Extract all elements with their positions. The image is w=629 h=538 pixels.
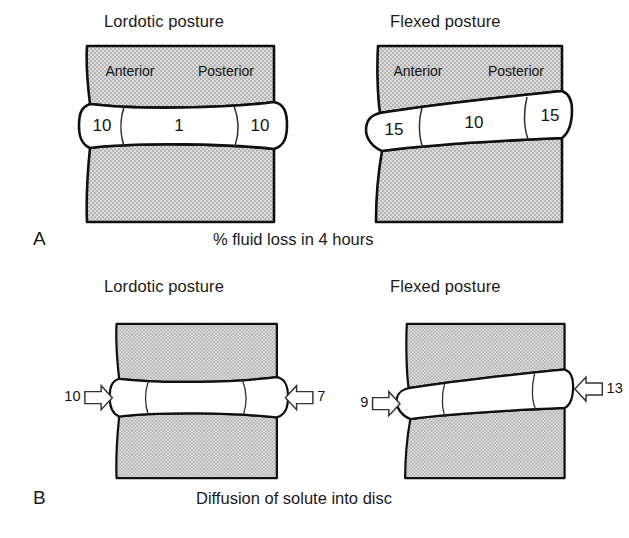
panel-a-flexed-diagram: Anterior Posterior 15 10 15 [364, 44, 574, 226]
posterior-region-label: Posterior [198, 63, 254, 79]
anterior-diffusion-arrow [85, 386, 112, 410]
panel-a-flexed-title: Flexed posture [390, 12, 501, 31]
inferior-vertebral-body [405, 408, 564, 478]
panel-a: Lordotic posture Flexed posture [0, 0, 629, 265]
panel-b-letter: B [33, 487, 46, 509]
figure-root: Lordotic posture Flexed posture [0, 0, 629, 538]
panel-b-lordotic-title: Lordotic posture [104, 277, 224, 296]
panel-b-caption: Diffusion of solute into disc [196, 489, 392, 508]
posterior-anulus-value: 15 [541, 106, 560, 125]
posterior-region-label: Posterior [488, 63, 544, 79]
anterior-region-label: Anterior [105, 63, 154, 79]
panel-a-letter: A [33, 228, 46, 250]
inferior-vertebral-body [116, 413, 277, 478]
anterior-diffusion-arrow [373, 392, 400, 416]
anterior-anulus-value: 10 [93, 116, 112, 135]
nucleus-value: 10 [465, 113, 484, 132]
posterior-diffusion-value: 7 [317, 388, 325, 404]
anterior-diffusion-value: 10 [64, 388, 80, 404]
posterior-diffusion-arrow [575, 377, 602, 401]
panel-b-lordotic-diagram: 10 7 [78, 309, 294, 494]
panel-b-flexed-title: Flexed posture [390, 277, 501, 296]
anterior-anulus-value: 15 [385, 120, 404, 139]
posterior-diffusion-arrow [285, 386, 312, 410]
panel-a-lordotic-diagram: Anterior Posterior 10 1 10 [78, 44, 288, 226]
superior-vertebral-body [116, 324, 277, 382]
panel-b: Lordotic posture Flexed posture 10 7 [0, 265, 629, 538]
inferior-vertebral-body [87, 144, 274, 222]
anterior-region-label: Anterior [393, 63, 442, 79]
posterior-diffusion-value: 13 [607, 380, 623, 396]
panel-a-lordotic-title: Lordotic posture [104, 12, 224, 31]
posterior-anulus-value: 10 [251, 116, 270, 135]
panel-a-caption: % fluid loss in 4 hours [213, 230, 374, 249]
inferior-vertebral-body [376, 138, 562, 222]
anterior-diffusion-value: 9 [360, 394, 368, 410]
intervertebral-disc [110, 377, 288, 417]
panel-b-flexed-diagram: 9 13 [364, 309, 580, 494]
nucleus-value: 1 [174, 116, 183, 135]
